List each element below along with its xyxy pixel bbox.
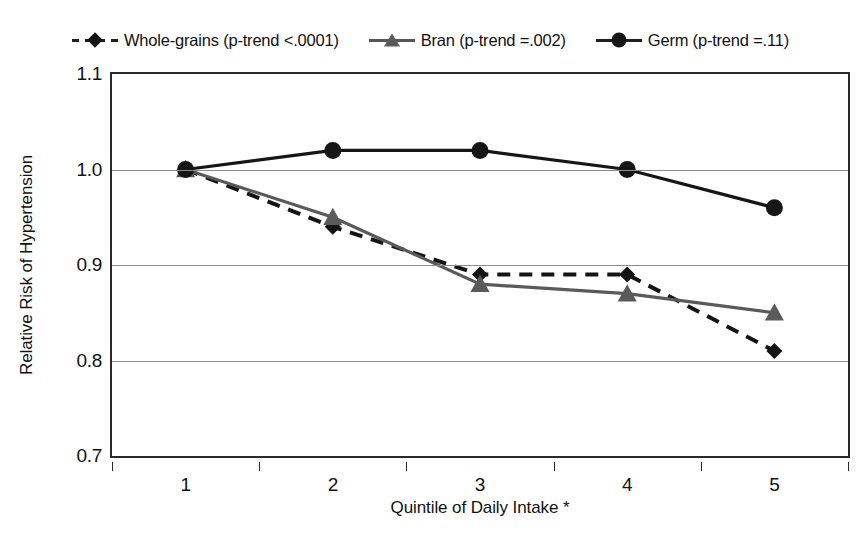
series-germ: [177, 142, 783, 216]
plot-area: [110, 72, 850, 458]
chart-legend: Whole-grains (p-trend <.0001) Bran (p-tr…: [0, 26, 861, 54]
x-tick-mark: [701, 462, 702, 471]
legend-item-whole-grains: Whole-grains (p-trend <.0001): [72, 31, 339, 50]
diamond-marker-icon: [619, 267, 635, 283]
circle-marker-icon: [324, 142, 341, 159]
y-tick-label: 1.0: [32, 159, 102, 181]
x-tick-mark: [259, 462, 260, 471]
legend-label-germ: Germ (p-trend =.11): [648, 31, 789, 50]
legend-label-bran: Bran (p-trend =.002): [421, 31, 566, 50]
gridline: [112, 170, 848, 171]
y-axis-tick-labels: 0.70.80.91.01.1: [30, 72, 102, 458]
x-tick-label: 2: [313, 474, 353, 496]
series-whole-grains: [178, 162, 783, 359]
circle-marker-icon: [611, 33, 626, 48]
y-tick-label: 0.9: [32, 254, 102, 276]
x-tick-mark: [848, 462, 849, 471]
legend-item-bran: Bran (p-trend =.002): [369, 31, 566, 50]
x-tick-label: 4: [607, 474, 647, 496]
legend-swatch-germ: [596, 32, 642, 48]
legend-swatch-bran: [369, 32, 415, 48]
hypertension-risk-chart: Whole-grains (p-trend <.0001) Bran (p-tr…: [0, 0, 861, 550]
x-axis-title: Quintile of Daily Intake *: [110, 498, 850, 518]
y-tick-label: 0.7: [32, 445, 102, 467]
circle-marker-icon: [766, 199, 783, 216]
x-tick-mark: [554, 462, 555, 471]
y-tick-label: 0.8: [32, 350, 102, 372]
x-tick-mark: [406, 462, 407, 471]
x-tick-label: 5: [754, 474, 794, 496]
series-bran: [176, 160, 784, 321]
legend-swatch-whole-grains: [72, 32, 118, 48]
legend-item-germ: Germ (p-trend =.11): [596, 31, 789, 50]
triangle-marker-icon: [384, 34, 400, 47]
x-axis-tick-labels: 12345: [110, 462, 850, 492]
x-tick-label: 3: [460, 474, 500, 496]
legend-label-whole-grains: Whole-grains (p-trend <.0001): [124, 31, 339, 50]
gridline: [112, 361, 848, 362]
diamond-marker-icon: [766, 343, 782, 359]
x-tick-label: 1: [166, 474, 206, 496]
x-tick-mark: [112, 462, 113, 471]
circle-marker-icon: [472, 142, 489, 159]
diamond-marker-icon: [87, 32, 103, 48]
gridline: [112, 265, 848, 266]
y-tick-label: 1.1: [32, 63, 102, 85]
